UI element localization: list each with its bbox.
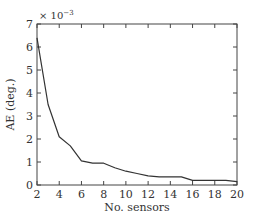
x-tick-label: 4 <box>56 188 63 201</box>
y-tick-label: 7 <box>26 18 33 31</box>
x-tick-label: 16 <box>186 188 200 201</box>
x-tick-label: 6 <box>78 188 85 201</box>
line-chart: 246810121416182001234567 × 10−3 No. sens… <box>0 0 254 218</box>
y-tick-label: 4 <box>26 87 33 100</box>
y-scale-multiplier: × 10−3 <box>39 9 74 21</box>
x-tick-label: 2 <box>34 188 41 201</box>
x-axis-label: No. sensors <box>104 201 170 214</box>
x-tick-label: 20 <box>230 188 244 201</box>
y-tick-label: 0 <box>26 179 33 192</box>
axis-ticks <box>37 24 237 185</box>
series-line <box>37 38 237 182</box>
x-tick-label: 12 <box>141 188 155 201</box>
plot-frame <box>37 24 237 185</box>
x-tick-label: 14 <box>163 188 177 201</box>
y-tick-label: 6 <box>26 41 33 54</box>
x-tick-label: 8 <box>100 188 107 201</box>
x-tick-label: 18 <box>208 188 222 201</box>
y-tick-label: 3 <box>26 110 33 123</box>
data-series <box>37 38 237 182</box>
y-tick-label: 5 <box>26 64 33 77</box>
x-tick-label: 10 <box>119 188 133 201</box>
y-axis-label: AE (deg.) <box>4 78 17 131</box>
y-tick-label: 2 <box>26 133 33 146</box>
y-tick-label: 1 <box>26 156 33 169</box>
